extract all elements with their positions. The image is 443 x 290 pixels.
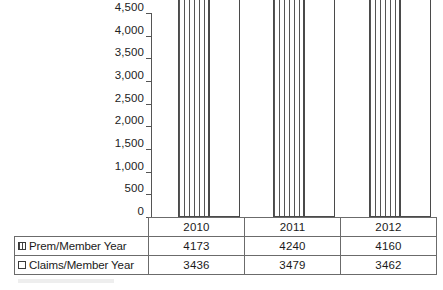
table-header-year: 2011: [245, 218, 341, 237]
bar-prem-2011: [273, 0, 304, 217]
y-tick-label: 2,500: [96, 93, 144, 105]
bar-claims-2012: [400, 0, 431, 217]
legend-label: Claims/Member Year: [29, 259, 134, 271]
bar-prem-2012: [369, 0, 400, 217]
bar-group-2010: [151, 13, 246, 217]
bar-claims-2010: [209, 0, 240, 217]
scan-artifact: [18, 279, 114, 283]
bar-group-2012: [342, 13, 437, 217]
table-header-year: 2012: [341, 218, 437, 237]
chart-data-table: 2010 2011 2012 Prem/Member Year 4173 424…: [14, 217, 437, 275]
y-tick-label: 1,500: [96, 138, 144, 150]
y-tick-label: 4,000: [96, 25, 144, 37]
table-corner-cell: [15, 218, 149, 237]
y-tick-label: 500: [96, 184, 144, 196]
bar-group-2011: [246, 13, 341, 217]
y-tick-label: 1,000: [96, 161, 144, 173]
table-cell-value: 4160: [341, 237, 437, 256]
table-row: Prem/Member Year 4173 4240 4160: [15, 237, 437, 256]
empty-square-icon: [18, 261, 26, 269]
table-header-year: 2010: [149, 218, 245, 237]
table-cell-value: 4173: [149, 237, 245, 256]
y-axis-tick-labels: 4,500 4,000 3,500 3,000 2,500 2,000 1,50…: [96, 8, 144, 220]
bar-claims-2011: [304, 0, 335, 217]
bars-layer: [151, 13, 437, 217]
table-cell-value: 3462: [341, 256, 437, 275]
hatched-square-icon: [18, 242, 26, 250]
table-row-years: 2010 2011 2012: [15, 218, 437, 237]
y-tick-label: 4,500: [96, 2, 144, 14]
legend-label: Prem/Member Year: [29, 240, 126, 252]
y-tick-label: 3,500: [96, 48, 144, 60]
table-cell-value: 3436: [149, 256, 245, 275]
y-tick-label: 2,000: [96, 116, 144, 128]
table-row: Claims/Member Year 3436 3479 3462: [15, 256, 437, 275]
legend-item-claims: Claims/Member Year: [15, 256, 149, 275]
legend-item-prem: Prem/Member Year: [15, 237, 149, 256]
bar-prem-2010: [178, 0, 209, 217]
plot-area: 4,500 4,000 3,500 3,000 2,500 2,000 1,50…: [0, 0, 443, 226]
bar-chart-with-data-table: 4,500 4,000 3,500 3,000 2,500 2,000 1,50…: [0, 0, 443, 290]
table-cell-value: 4240: [245, 237, 341, 256]
table-cell-value: 3479: [245, 256, 341, 275]
y-tick-label: 3,000: [96, 70, 144, 82]
